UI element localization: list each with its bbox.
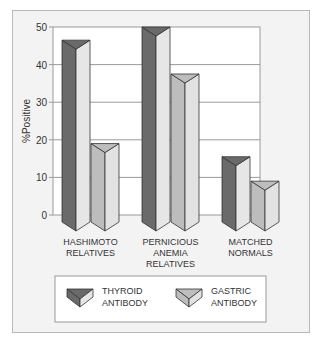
- x-category-label: PERNICIOUS: [142, 237, 198, 247]
- x-category-label: HASHIMOTO: [63, 237, 117, 247]
- x-axis-labels: HASHIMOTORELATIVESPERNICIOUSANEMIARELATI…: [63, 237, 273, 269]
- bar-face-right: [185, 74, 199, 231]
- bar-face-right: [105, 144, 119, 231]
- legend-label: GASTRIC: [211, 286, 252, 296]
- x-category-label: ANEMIA: [153, 248, 188, 258]
- x-category-label: RELATIVES: [66, 248, 115, 258]
- bar-face-right: [76, 40, 90, 231]
- y-tick-label: 50: [36, 22, 48, 33]
- y-axis-label: %Positive: [21, 99, 32, 143]
- y-tick-label: 0: [41, 210, 47, 221]
- bar-face-right: [156, 27, 170, 231]
- bar-face-left: [142, 27, 156, 231]
- legend-label: THYROID: [102, 286, 143, 296]
- legend-label: ANTIBODY: [102, 298, 148, 308]
- bar-face-left: [222, 157, 236, 231]
- y-tick-label: 30: [36, 97, 48, 108]
- bar-face-left: [171, 74, 185, 231]
- y-tick-label: 10: [36, 172, 48, 183]
- x-category-label: NORMALS: [228, 248, 273, 258]
- legend-label: ANTIBODY: [211, 298, 257, 308]
- bar-face-right: [236, 157, 250, 231]
- bar-face-left: [91, 144, 105, 231]
- bar-face-left: [62, 40, 76, 231]
- x-category-label: RELATIVES: [146, 259, 195, 269]
- y-axis-ticks: 01020304050: [36, 22, 53, 221]
- bar-chart: 01020304050 %Positive HASHIMOTORELATIVES…: [0, 0, 321, 343]
- y-tick-label: 20: [36, 135, 48, 146]
- x-category-label: MATCHED: [229, 237, 273, 247]
- y-tick-label: 40: [36, 60, 48, 71]
